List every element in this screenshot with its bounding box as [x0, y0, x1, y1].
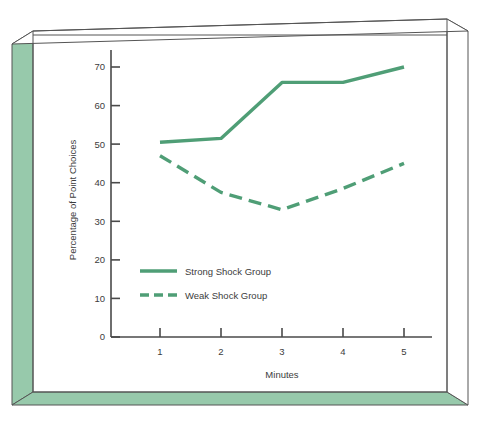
- x-tick-label-3: 3: [279, 346, 284, 357]
- y-tick-label-60: 60: [94, 100, 105, 111]
- box-left-panel: [12, 31, 33, 405]
- y-tick-label-20: 20: [94, 254, 105, 265]
- figure-container: 0 10 20 30 40 50 60 70 1 2 3: [0, 0, 480, 421]
- y-axis-title: Percentage of Point Choices: [67, 140, 78, 261]
- x-axis-title: Minutes: [265, 369, 299, 380]
- x-tick-label-5: 5: [401, 346, 406, 357]
- x-tick-label-4: 4: [340, 346, 345, 357]
- y-tick-label-40: 40: [94, 177, 105, 188]
- y-tick-label-70: 70: [94, 61, 105, 72]
- x-tick-label-1: 1: [157, 346, 162, 357]
- y-tick-label-50: 50: [94, 139, 105, 150]
- box-bottom-panel: [12, 392, 468, 405]
- chart-svg: 0 10 20 30 40 50 60 70 1 2 3: [0, 0, 480, 421]
- box-frame: [12, 19, 468, 405]
- y-tick-label-0: 0: [100, 331, 105, 342]
- y-tick-label-30: 30: [94, 216, 105, 227]
- x-tick-label-2: 2: [218, 346, 223, 357]
- legend-label-strong-shock-group: Strong Shock Group: [185, 266, 271, 277]
- legend-label-weak-shock-group: Weak Shock Group: [185, 290, 267, 301]
- box-back-face: [33, 19, 447, 392]
- y-tick-label-10: 10: [94, 293, 105, 304]
- box-right-panel: [447, 19, 468, 405]
